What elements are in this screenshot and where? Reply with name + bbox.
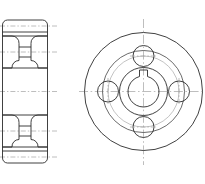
view-front-section xyxy=(0,20,57,163)
view-end-plan xyxy=(79,19,205,165)
section-view-centerlines xyxy=(0,26,57,157)
engineering-drawing-canvas: Flanged Hub / Pulley — Two-View Orthogra… xyxy=(0,0,205,184)
drawing-svg: Flanged Hub / Pulley — Two-View Orthogra… xyxy=(0,0,205,184)
